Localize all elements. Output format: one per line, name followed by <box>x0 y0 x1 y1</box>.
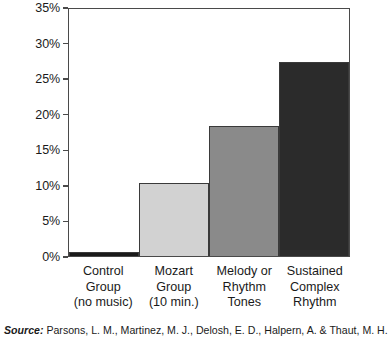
x-axis-label: MozartGroup(10 min.) <box>139 260 210 314</box>
x-axis-label-line: Control <box>69 264 138 280</box>
y-axis-tick-label: 35% <box>35 1 63 15</box>
y-axis-tick: 25% <box>35 72 68 86</box>
x-axis-label-line: Complex <box>281 280 350 296</box>
x-axis-label-line: Group <box>69 280 138 296</box>
source-text: Parsons, L. M., Martinez, M. J., Delosh,… <box>46 324 387 336</box>
bar-slot <box>279 9 349 256</box>
y-axis-tick-label: 30% <box>35 37 63 51</box>
y-axis-tick-label: 20% <box>35 108 63 122</box>
bar <box>69 252 139 256</box>
bar <box>279 62 349 256</box>
x-axis-labels: ControlGroup(no music)MozartGroup(10 min… <box>68 260 350 314</box>
y-axis-tick-label: 0% <box>42 250 63 264</box>
x-axis-label-line: Group <box>140 280 209 296</box>
y-axis-tick: 5% <box>42 214 68 228</box>
y-axis-tick-label: 10% <box>35 179 63 193</box>
y-axis: 0%5%10%15%20%25%30%35% <box>0 0 68 265</box>
x-axis-label-line: (no music) <box>69 295 138 311</box>
y-axis-tick: 15% <box>35 143 68 157</box>
plot-area <box>68 8 350 257</box>
bar <box>209 126 279 256</box>
source-note: Source: Parsons, L. M., Martinez, M. J.,… <box>4 324 366 337</box>
bar-slot <box>209 9 279 256</box>
y-axis-tick: 30% <box>35 37 68 51</box>
x-axis-label-line: (10 min.) <box>140 295 209 311</box>
x-axis-label-line: Melody or <box>210 264 279 280</box>
bar-slot <box>139 9 209 256</box>
y-axis-tick-label: 25% <box>35 72 63 86</box>
x-axis-label-line: Mozart <box>140 264 209 280</box>
x-axis-label-line: Tones <box>210 295 279 311</box>
y-axis-tick-label: 15% <box>35 143 63 157</box>
x-axis-label: ControlGroup(no music) <box>68 260 139 314</box>
y-axis-tick-label: 5% <box>42 214 63 228</box>
y-axis-tick: 10% <box>35 179 68 193</box>
x-axis-label: Melody orRhythmTones <box>209 260 280 314</box>
x-axis-label-line: Rhythm <box>281 295 350 311</box>
bar-slot <box>69 9 139 256</box>
bar <box>139 183 209 256</box>
x-axis-label: SustainedComplexRhythm <box>280 260 351 314</box>
y-axis-tick: 0% <box>42 250 68 264</box>
bars-layer <box>69 9 349 256</box>
x-axis-label-line: Sustained <box>281 264 350 280</box>
y-axis-tick: 35% <box>35 1 68 15</box>
y-axis-tick: 20% <box>35 108 68 122</box>
x-axis-label-line: Rhythm <box>210 280 279 296</box>
source-label: Source: <box>4 324 43 336</box>
